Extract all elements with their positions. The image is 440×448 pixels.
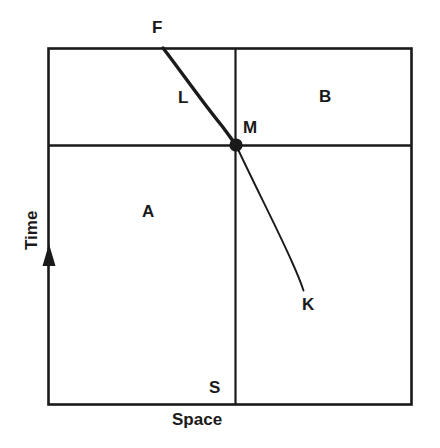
region-label-B: B [319, 88, 331, 105]
plot-frame [49, 49, 412, 405]
region-label-L: L [178, 89, 188, 106]
up-arrow-icon [43, 244, 56, 266]
point-label-K: K [302, 296, 314, 313]
curve-segment-F-to-M [163, 48, 236, 145]
point-marker-M [229, 138, 242, 151]
curve-segment-M-to-K [236, 145, 304, 291]
point-label-M: M [243, 119, 257, 136]
point-label-F: F [152, 19, 162, 36]
x-axis-label: Space [172, 411, 222, 428]
y-axis-label: Time [23, 211, 40, 250]
region-label-A: A [142, 203, 154, 220]
space-time-diagram: F L B M A K S Time Space [0, 0, 440, 448]
point-label-S: S [209, 379, 220, 396]
